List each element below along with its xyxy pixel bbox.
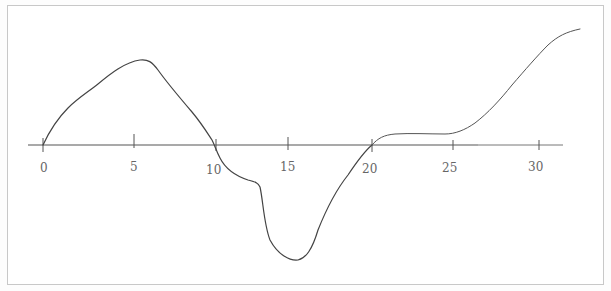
tick-label-25: 25 — [442, 161, 457, 175]
data-curve — [43, 60, 372, 260]
tick-label-10: 10 — [206, 163, 221, 177]
tick-label-30: 30 — [528, 160, 543, 174]
line-chart: 0 5 10 15 20 25 30 — [0, 0, 611, 291]
x-ticks — [43, 134, 539, 152]
tick-label-15: 15 — [280, 160, 295, 174]
tick-label-20: 20 — [362, 162, 377, 176]
x-tick-labels: 0 5 10 15 20 25 30 — [40, 160, 543, 177]
tick-label-5: 5 — [130, 160, 138, 174]
tick-label-0: 0 — [40, 161, 48, 175]
data-curve-right — [372, 29, 580, 145]
